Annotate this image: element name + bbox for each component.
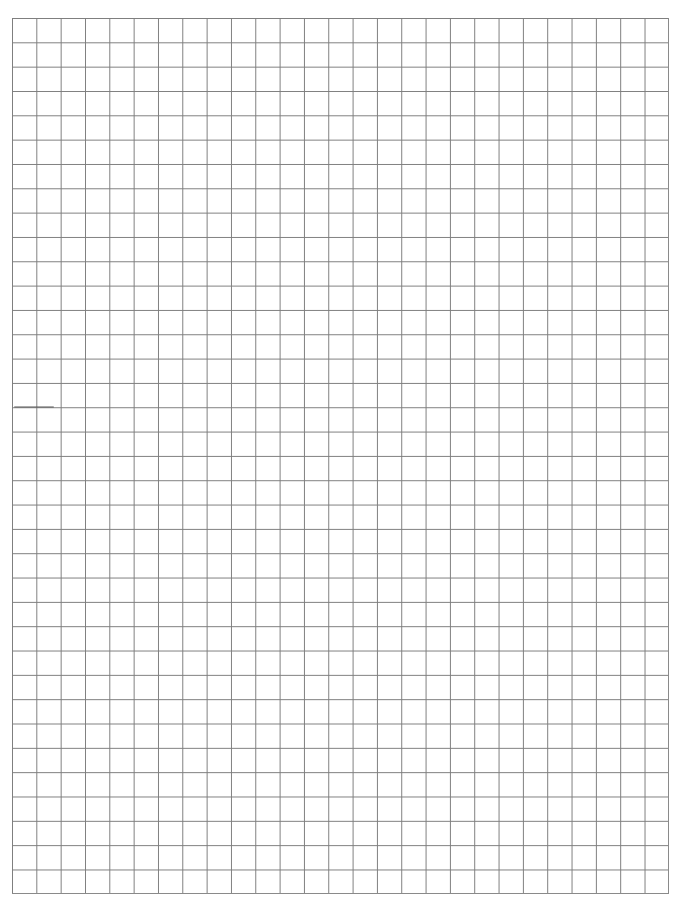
pencil-mark — [14, 406, 54, 408]
graph-paper-grid — [12, 18, 669, 894]
